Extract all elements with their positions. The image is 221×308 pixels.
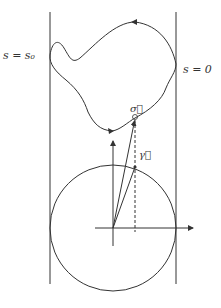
label-gamma: γ⃗ <box>139 149 151 160</box>
diagram-canvas <box>0 0 221 308</box>
closed-curve <box>50 22 176 131</box>
label-s-equals-s0: s = s₀ <box>3 49 35 62</box>
gamma-vector <box>113 167 135 228</box>
sigma-vector <box>113 121 135 228</box>
label-s-equals-0: s = 0 <box>183 63 212 76</box>
curve-arrow-top-icon <box>131 19 137 25</box>
label-sigma: σ⃗ <box>130 103 143 114</box>
curve-arrow-bottom-icon <box>108 128 114 134</box>
diagram: s = s₀ s = 0 σ⃗ γ⃗ <box>0 0 221 308</box>
